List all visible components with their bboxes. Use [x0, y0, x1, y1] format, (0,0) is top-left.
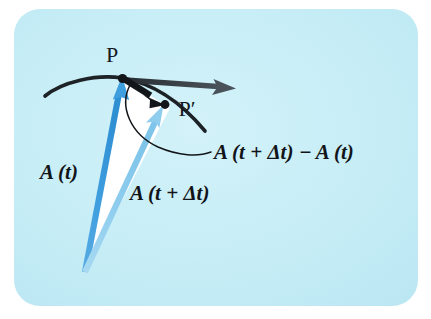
point-P-prime-dot — [161, 100, 170, 109]
vector-derivative-figure: P P′ A (t) A (t + Δt) A (t + Δt) − A (t) — [0, 0, 431, 319]
point-P-dot — [118, 74, 127, 83]
figure-root: P P′ A (t) A (t + Δt) A (t + Δt) − A (t) — [0, 0, 431, 319]
label-vector-A-t-delta: A (t + Δt) — [128, 181, 209, 205]
label-vector-A-t: A (t) — [38, 160, 78, 184]
label-difference: A (t + Δt) − A (t) — [212, 140, 354, 164]
point-label-P-prime: P′ — [178, 96, 195, 121]
point-label-P: P — [106, 42, 118, 67]
